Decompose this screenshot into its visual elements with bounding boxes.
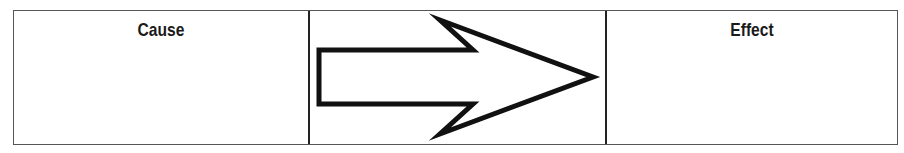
cause-cell: Cause	[14, 11, 310, 144]
cause-label: Cause	[40, 19, 281, 41]
cause-effect-table: Cause Effect	[13, 10, 898, 145]
arrow-cell	[310, 11, 607, 144]
effect-cell: Effect	[607, 11, 897, 144]
effect-label: Effect	[633, 19, 871, 41]
right-arrow-icon	[310, 11, 607, 144]
